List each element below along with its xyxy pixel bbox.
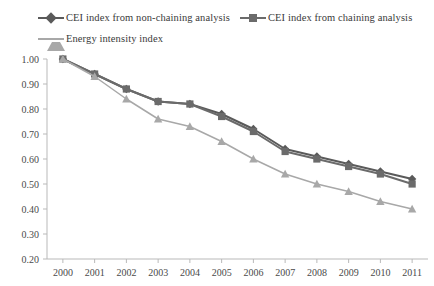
y-tick-label: 0.20: [22, 254, 40, 265]
x-tick-label: 2004: [180, 267, 200, 278]
data-point-marker: [345, 163, 352, 170]
data-point-marker: [409, 180, 416, 187]
data-point-marker: [122, 95, 130, 103]
legend-entry-cei-chaining: CEI index from chaining analysis: [240, 12, 412, 24]
x-tick-label: 2011: [402, 267, 422, 278]
y-tick-label: 0.50: [22, 179, 40, 190]
data-point-marker: [186, 100, 193, 107]
y-tick-label: 0.40: [22, 204, 40, 215]
x-tick-label: 2002: [116, 267, 136, 278]
x-tick-label: 2008: [307, 267, 327, 278]
legend-label-cei-non-chaining: CEI index from non-chaining analysis: [66, 12, 230, 24]
y-tick-label: 0.90: [22, 79, 40, 90]
data-point-marker: [313, 155, 320, 162]
y-tick-label: 0.80: [22, 104, 40, 115]
data-point-marker: [281, 170, 289, 178]
chart-figure: CEI index from non-chaining analysis CEI…: [0, 0, 434, 286]
legend-label-cei-chaining: CEI index from chaining analysis: [268, 12, 412, 24]
legend-row-bottom: Energy intensity index: [38, 33, 173, 45]
chart-legend: CEI index from non-chaining analysis CEI…: [0, 0, 434, 52]
data-point-marker: [218, 113, 225, 120]
data-point-marker: [154, 115, 162, 123]
x-tick-label: 2006: [243, 267, 263, 278]
data-point-marker: [249, 155, 257, 163]
x-tick-label: 2005: [212, 267, 232, 278]
data-point-marker: [155, 98, 162, 105]
series-1: [59, 55, 417, 183]
legend-label-energy-intensity: Energy intensity index: [66, 33, 163, 45]
y-axis-ticks: 0.200.300.400.500.600.700.800.901.00: [22, 54, 48, 265]
data-series-group: [59, 55, 417, 213]
diamond-marker-icon: [38, 12, 64, 24]
triangle-marker-icon: [38, 33, 64, 45]
legend-entry-energy-intensity: Energy intensity index: [38, 33, 163, 45]
series-line: [63, 59, 412, 209]
data-point-marker: [123, 85, 130, 92]
x-tick-label: 2009: [339, 267, 359, 278]
square-marker-icon: [240, 12, 266, 24]
y-tick-label: 0.70: [22, 129, 40, 140]
x-tick-label: 2003: [148, 267, 168, 278]
line-chart-svg: 0.200.300.400.500.600.700.800.901.00 200…: [0, 52, 434, 286]
series-3: [59, 55, 417, 213]
x-tick-label: 2007: [275, 267, 295, 278]
x-tick-label: 2010: [370, 267, 390, 278]
data-point-marker: [282, 148, 289, 155]
data-point-marker: [250, 128, 257, 135]
legend-entry-cei-non-chaining: CEI index from non-chaining analysis: [38, 12, 230, 24]
x-tick-label: 2001: [85, 267, 105, 278]
chart-plot-area: 0.200.300.400.500.600.700.800.901.00 200…: [0, 52, 434, 286]
y-tick-label: 1.00: [22, 54, 40, 65]
data-point-marker: [377, 170, 384, 177]
x-axis-ticks: 2000200120022003200420052006200720082009…: [53, 259, 422, 278]
series-line: [63, 59, 412, 179]
legend-row-top: CEI index from non-chaining analysis CEI…: [38, 12, 422, 24]
y-tick-label: 0.60: [22, 154, 40, 165]
data-point-marker: [217, 137, 225, 145]
x-tick-label: 2000: [53, 267, 73, 278]
y-tick-label: 0.30: [22, 229, 40, 240]
